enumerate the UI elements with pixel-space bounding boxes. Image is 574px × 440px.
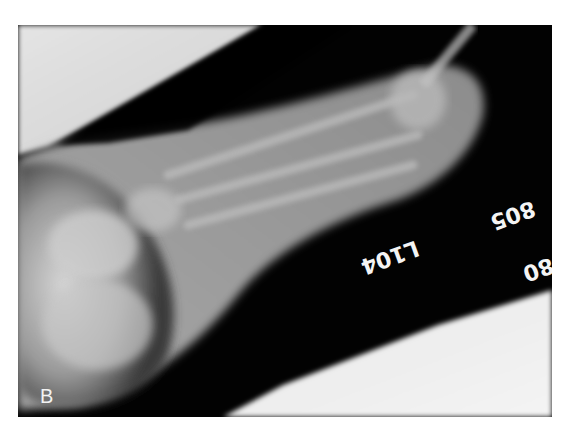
- xray-figure: L104 805 80 B: [18, 25, 552, 417]
- xray-image: [18, 25, 552, 417]
- panel-label: B: [40, 385, 53, 408]
